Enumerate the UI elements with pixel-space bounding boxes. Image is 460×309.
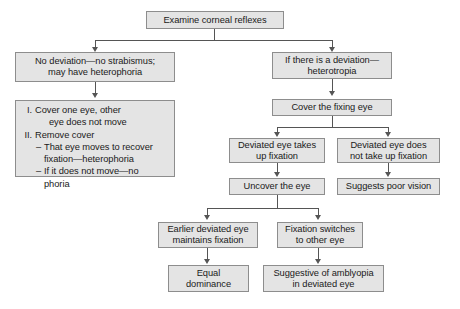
arrow-to-suggestive-amblyopia [315,259,321,264]
node-label: Cover the fixing eye [291,102,372,113]
list-item: eye does not move [21,116,169,128]
node-uncover-the-eye: Uncover the eye [229,178,325,195]
list-marker: – [35,141,41,153]
list-text: Cover one eye, other [35,104,169,116]
arrow-to-not-take-up-fixation [385,132,391,137]
node-deviated-eye-takes-up-fixation: Deviated eye takes up fixation [229,138,325,163]
list-marker: – [35,165,41,177]
list-text: If it does not move—no [44,165,169,177]
node-label: Suggestive of amblyopia in deviated eye [273,268,373,290]
node-label: Earlier deviated eye maintains fixation [167,224,248,246]
node-equal-dominance: Equal dominance [168,265,249,292]
arrow-to-cover-fixing-eye [329,91,335,96]
list-item: fixation—heterophoria [21,153,169,165]
node-suggests-poor-vision: Suggests poor vision [337,178,440,195]
arrow-to-maintains-fixation [204,215,210,220]
list-item: –That eye moves to recover [21,141,169,153]
list-text: phoria [44,178,70,190]
arrow-to-takes-up-fixation [274,132,280,137]
edge-root-bus [95,40,333,41]
node-label: No deviation—no strabismus; may have het… [35,56,155,78]
edge-uncover-bus [207,208,319,209]
arrow-to-equal-dominance [204,259,210,264]
list-item: I.Cover one eye, other [21,104,169,116]
list-item: –If it does not move—no [21,165,169,177]
flowchart-canvas: Examine corneal reflexes No deviation—no… [0,0,460,309]
arrow-to-fixation-switches [315,215,321,220]
list-text: That eye moves to recover [44,141,169,153]
list-marker: I. [21,104,32,116]
node-label: Suggests poor vision [346,181,431,192]
list-text: fixation—heterophoria [44,153,134,165]
node-earlier-deviated-eye-maintains-fixation: Earlier deviated eye maintains fixation [158,222,258,248]
list-item: II.Remove cover [21,129,169,141]
list-item: phoria [21,178,169,190]
node-cover-the-fixing-eye: Cover the fixing eye [272,99,392,116]
arrow-to-uncover-the-eye [274,172,280,177]
edge-cover-fixing-bus [277,127,388,128]
node-label: Deviated eye does not take up fixation [350,140,427,162]
node-deviated-eye-not-take-up-fixation: Deviated eye does not take up fixation [337,138,440,163]
arrow-to-suggests-poor-vision [385,172,391,177]
node-label: Examine corneal reflexes [163,15,266,26]
node-examine-corneal-reflexes: Examine corneal reflexes [146,11,284,29]
node-label: Equal dominance [186,268,231,290]
node-suggestive-of-amblyopia: Suggestive of amblyopia in deviated eye [263,265,384,292]
node-label: If there is a deviation— heterotropia [285,55,379,77]
node-label: Uncover the eye [244,181,311,192]
node-fixation-switches-to-other-eye: Fixation switches to other eye [277,222,363,248]
node-label: Fixation switches to other eye [285,224,355,246]
edge-cover-fixing-stem [332,116,333,127]
edge-uncover-stem [277,195,278,208]
list-text: eye does not move [49,116,127,128]
node-no-deviation: No deviation—no strabismus; may have het… [15,52,175,82]
arrow-to-cover-steps [92,93,98,98]
node-if-deviation-heterotropia: If there is a deviation— heterotropia [272,52,392,79]
node-label: Deviated eye takes up fixation [238,140,316,162]
list-marker: II. [21,129,32,141]
list-text: Remove cover [35,129,169,141]
node-cover-test-steps: I.Cover one eye, other eye does not move… [15,100,175,177]
